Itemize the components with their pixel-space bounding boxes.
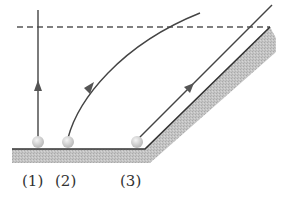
ground-and-ramp-fill xyxy=(12,27,276,163)
arrow-icon-path-2 xyxy=(84,82,94,94)
physics-diagram: (1) (2) (3) xyxy=(0,0,282,198)
ball-2 xyxy=(62,136,74,148)
ball-1 xyxy=(32,136,44,148)
ball-3 xyxy=(131,136,143,148)
arrow-icon-path-1 xyxy=(34,80,42,91)
label-1: (1) xyxy=(22,172,43,190)
label-3: (3) xyxy=(120,172,141,190)
label-2: (2) xyxy=(55,172,76,190)
